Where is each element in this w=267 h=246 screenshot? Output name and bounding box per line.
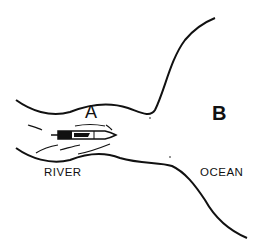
upper-shoreline [16,18,215,114]
speck [149,117,151,119]
boat-icon [51,131,116,139]
label-ocean: OCEAN [200,166,243,178]
speck [169,156,171,158]
label-point-b: B [212,102,226,125]
label-point-a: A [85,102,97,123]
label-river: RIVER [44,166,82,178]
river-ocean-diagram [0,0,267,246]
lower-shoreline [16,148,247,238]
